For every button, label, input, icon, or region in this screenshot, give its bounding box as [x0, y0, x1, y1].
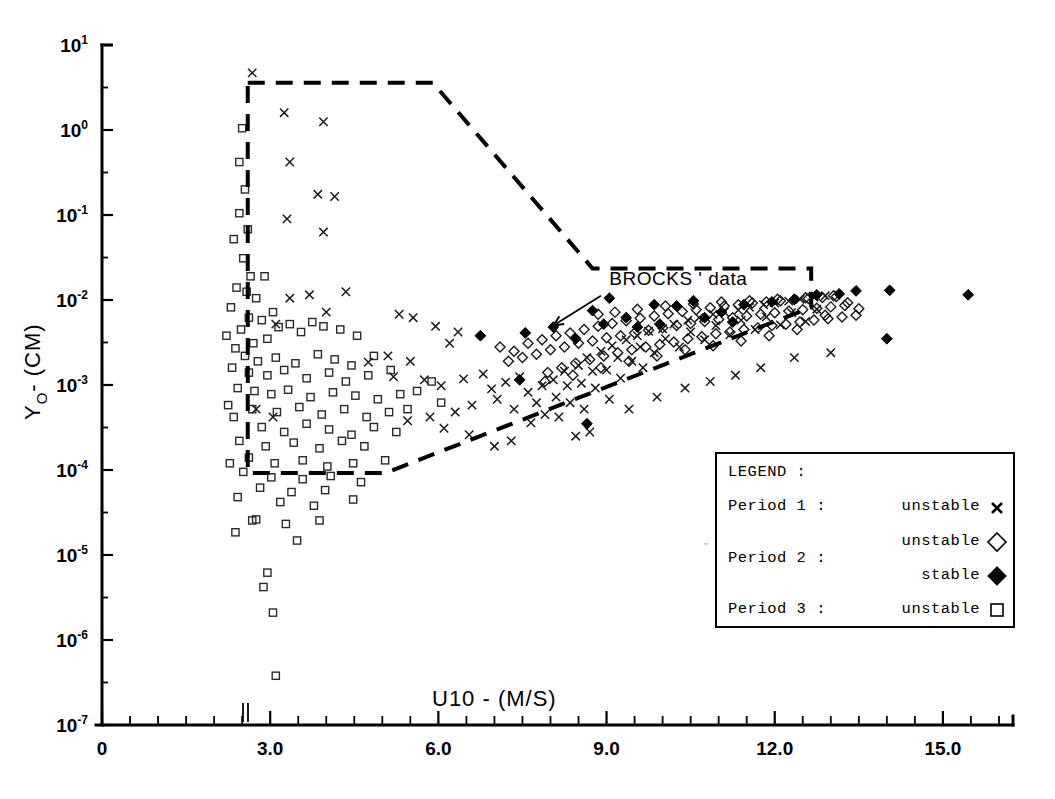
brocks-data-label: BROCKS ' data [609, 268, 747, 289]
legend-title: LEGEND : [728, 463, 806, 481]
data-point-square [264, 335, 271, 342]
legend-period-2-label: Period 2 : [728, 549, 826, 567]
data-point-square [324, 463, 331, 470]
data-point-x [577, 379, 585, 387]
data-point-square [250, 340, 257, 347]
data-point-x [681, 384, 689, 392]
data-point-diamond-open [495, 342, 505, 352]
data-point-x [555, 413, 563, 421]
data-point-square [258, 317, 265, 324]
data-point-diamond-open [809, 315, 819, 325]
legend-state-4: unstable [862, 600, 980, 618]
legend-period-3-label: Period 3 : [728, 600, 826, 618]
data-point-diamond-filled [632, 322, 643, 333]
x-tick-label: 6.0 [425, 738, 451, 759]
data-point-square [232, 345, 239, 352]
data-point-square [310, 502, 317, 509]
y-tick-label: 10-4 [56, 458, 88, 481]
diamond-filled-marker-icon [985, 564, 1009, 588]
data-point-square [268, 391, 275, 398]
data-point-square [325, 426, 332, 433]
data-point-diamond-filled [520, 328, 531, 339]
data-point-diamond-filled [699, 312, 710, 323]
data-point-square [251, 387, 258, 394]
data-point-diamond-filled [570, 333, 581, 344]
data-point-square [353, 332, 360, 339]
data-point-diamond-open [531, 349, 541, 359]
data-point-square [338, 437, 345, 444]
data-point-diamond-open [613, 348, 623, 358]
data-point-x [283, 215, 291, 223]
data-point-x [248, 69, 256, 77]
x-tick-label: 9.0 [593, 738, 619, 759]
data-point-x [322, 308, 330, 316]
x-axis-tick-labels: 03.06.09.012.015.0 [97, 738, 962, 759]
data-point-square [282, 520, 289, 527]
data-point-square [247, 273, 254, 280]
diamond-open-marker-icon [985, 530, 1009, 554]
data-point-square [309, 318, 316, 325]
data-point-x [479, 370, 487, 378]
data-point-square [236, 210, 243, 217]
data-point-diamond-open [560, 342, 570, 352]
data-point-diamond-open [509, 346, 519, 356]
data-point-square [230, 413, 237, 420]
y-tick-label: 10-6 [56, 628, 88, 651]
data-point-x [454, 328, 462, 336]
data-point-diamond-filled [881, 333, 892, 344]
data-point-square [370, 423, 377, 430]
data-point-x [493, 395, 501, 403]
data-point-square [236, 437, 243, 444]
data-point-x [566, 398, 574, 406]
data-point-square [322, 487, 329, 494]
data-point-diamond-filled [604, 293, 615, 304]
data-point-x [364, 358, 372, 366]
data-point-square [223, 332, 230, 339]
data-point-x [507, 437, 515, 445]
y-tick-label: 10-3 [56, 373, 88, 396]
data-point-square [234, 493, 241, 500]
data-point-square [329, 389, 336, 396]
data-point-x [527, 419, 535, 427]
y-tick-label: 10-7 [56, 713, 88, 736]
data-point-square [277, 498, 284, 505]
data-point-square [357, 479, 364, 486]
data-point-square [269, 609, 276, 616]
data-point-square [226, 460, 233, 467]
data-point-x [409, 313, 417, 321]
data-point-square [230, 236, 237, 243]
data-point-diamond-open [649, 311, 659, 321]
data-point-square [387, 366, 394, 373]
y-axis-title: YO- (CM) [20, 323, 50, 420]
data-point-x [591, 384, 599, 392]
data-point-x [625, 405, 633, 413]
data-point-x [608, 341, 616, 349]
legend-period-1-label: Period 1 : [728, 497, 826, 515]
data-point-diamond-open [764, 331, 774, 341]
data-point-square [272, 672, 279, 679]
data-point-square [404, 406, 411, 413]
data-point-square [225, 402, 232, 409]
data-point-x [431, 322, 439, 330]
data-point-x [501, 378, 509, 386]
data-point-square [307, 394, 314, 401]
data-point-x [286, 158, 294, 166]
data-point-x [605, 395, 613, 403]
data-point-diamond-open [837, 312, 847, 322]
data-point-diamond-open [602, 333, 612, 343]
data-point-square [285, 386, 292, 393]
data-point-x [420, 376, 428, 384]
data-point-square [342, 378, 349, 385]
data-point-diamond-open [545, 345, 555, 355]
legend-state-3: stable [862, 566, 980, 584]
data-point-x [319, 118, 327, 126]
data-point-square [271, 460, 278, 467]
data-point-x [560, 367, 568, 375]
data-point-square [325, 369, 332, 376]
data-point-diamond-open [826, 302, 836, 312]
data-point-square [281, 428, 288, 435]
data-point-square [293, 537, 300, 544]
data-point-square [264, 372, 271, 379]
data-point-diamond-open [517, 353, 527, 363]
data-point-square [240, 468, 247, 475]
